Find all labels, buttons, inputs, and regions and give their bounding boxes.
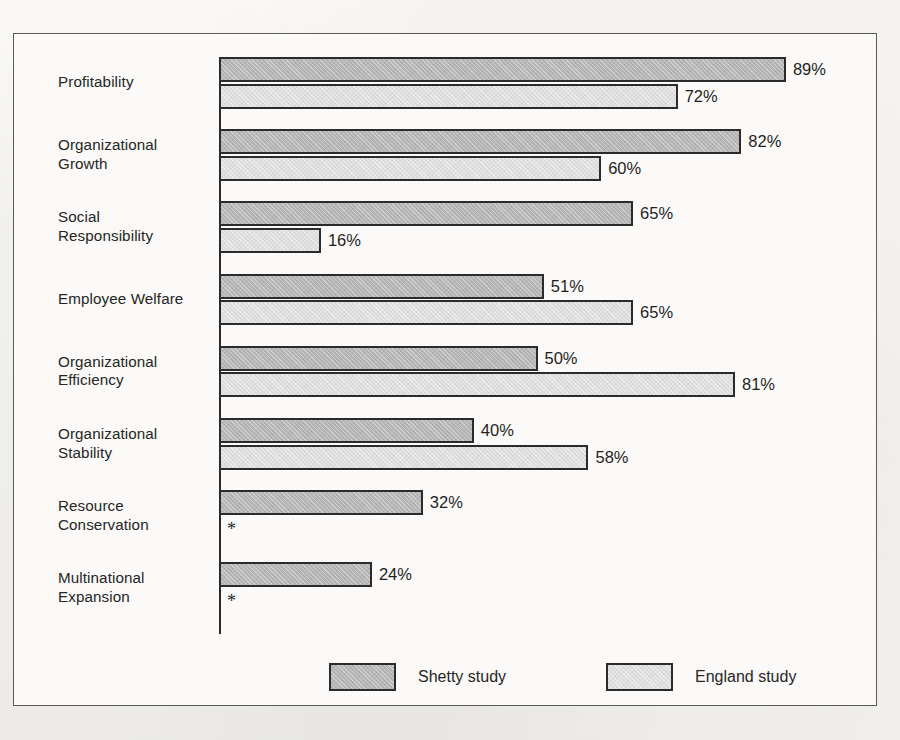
chart-frame: Profitability89%72%OrganizationalGrowth8… [13, 33, 877, 706]
bar-value-shetty: 32% [430, 490, 463, 515]
category-label: OrganizationalStability [58, 425, 216, 462]
bar-value-shetty: 51% [551, 274, 584, 299]
category-label-line: Organizational [58, 353, 216, 372]
category-label: MultinationalExpansion [58, 569, 216, 606]
bar-shetty [219, 57, 786, 82]
bar-england [219, 228, 321, 253]
bar-shetty [219, 274, 544, 299]
bar-shetty [219, 418, 474, 443]
missing-data-asterisk: * [227, 517, 236, 542]
bar-england [219, 445, 588, 470]
category-label-line: Organizational [58, 425, 216, 444]
bar-shetty [219, 490, 423, 515]
category-label-line: Growth [58, 155, 216, 174]
category-label: OrganizationalEfficiency [58, 353, 216, 390]
category-label: SocialResponsibility [58, 208, 216, 245]
legend-swatch [606, 663, 673, 691]
category-label-line: Employee Welfare [58, 290, 216, 309]
bar-shetty [219, 346, 538, 371]
bar-value-england: 16% [328, 228, 361, 253]
bar-value-shetty: 89% [793, 57, 826, 82]
bar-england [219, 372, 735, 397]
category-label: Employee Welfare [58, 290, 216, 309]
legend-item: England study [606, 663, 796, 691]
category-label-line: Responsibility [58, 227, 216, 246]
category-label-line: Multinational [58, 569, 216, 588]
bar-shetty [219, 562, 372, 587]
bar-shetty [219, 129, 741, 154]
bar-england [219, 156, 601, 181]
bar-england [219, 84, 678, 109]
category-label-line: Efficiency [58, 371, 216, 390]
category-label-line: Expansion [58, 588, 216, 607]
bar-value-shetty: 24% [379, 562, 412, 587]
category-label-line: Social [58, 208, 216, 227]
bar-value-shetty: 65% [640, 201, 673, 226]
chart-plot-area: Profitability89%72%OrganizationalGrowth8… [14, 34, 876, 705]
category-label-line: Profitability [58, 73, 216, 92]
bar-value-england: 58% [595, 445, 628, 470]
category-label-line: Stability [58, 444, 216, 463]
bar-value-england: 81% [742, 372, 775, 397]
bar-shetty [219, 201, 633, 226]
bar-value-shetty: 40% [481, 418, 514, 443]
bar-value-shetty: 82% [748, 129, 781, 154]
category-label-line: Conservation [58, 516, 216, 535]
legend-label: England study [695, 668, 796, 686]
category-label-line: Resource [58, 497, 216, 516]
category-label: Profitability [58, 73, 216, 92]
bar-value-england: 72% [685, 84, 718, 109]
category-label-line: Organizational [58, 136, 216, 155]
chart-legend: Shetty studyEngland study [14, 663, 876, 705]
bar-value-shetty: 50% [545, 346, 578, 371]
missing-data-asterisk: * [227, 589, 236, 614]
bar-value-england: 65% [640, 300, 673, 325]
legend-item: Shetty study [329, 663, 506, 691]
legend-swatch [329, 663, 396, 691]
bar-england [219, 300, 633, 325]
category-label: OrganizationalGrowth [58, 136, 216, 173]
category-label: ResourceConservation [58, 497, 216, 534]
bar-value-england: 60% [608, 156, 641, 181]
legend-label: Shetty study [418, 668, 506, 686]
